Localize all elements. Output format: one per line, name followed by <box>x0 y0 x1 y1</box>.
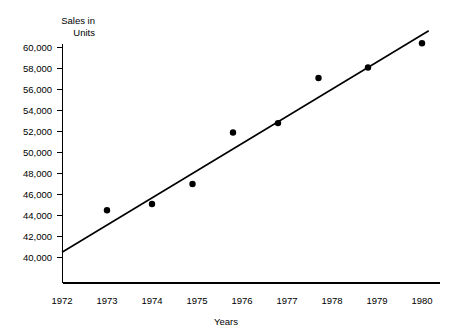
y-tick-label-54000: 54,000 <box>23 105 52 116</box>
x-tick-label-1977: 1977 <box>276 295 297 306</box>
y-tick-label-52000: 52,000 <box>23 126 52 137</box>
data-point <box>315 75 321 81</box>
data-point <box>189 181 195 187</box>
x-tick-label-1975: 1975 <box>186 295 207 306</box>
x-tick-label-1974: 1974 <box>141 295 162 306</box>
data-point <box>419 40 425 46</box>
x-tick-label-1976: 1976 <box>231 295 252 306</box>
data-point <box>149 201 155 207</box>
y-tick-label-60000: 60,000 <box>23 42 52 53</box>
y-tick-label-42000: 42,000 <box>23 231 52 242</box>
y-tick-label-56000: 56,000 <box>23 84 52 95</box>
y-axis-title-line2: Units <box>73 27 95 38</box>
data-point <box>230 129 236 135</box>
data-point <box>275 120 281 126</box>
data-point <box>104 207 110 213</box>
chart-page: Sales in Units 60,000 58,000 56,000 54,0… <box>0 0 452 334</box>
data-points-group <box>104 40 425 213</box>
y-axis-ticks <box>57 48 63 258</box>
y-tick-label-44000: 44,000 <box>23 210 52 221</box>
data-point <box>365 64 371 70</box>
y-axis-title-line1: Sales in <box>61 15 95 26</box>
y-tick-label-40000: 40,000 <box>23 252 52 263</box>
x-tick-label-1973: 1973 <box>96 295 117 306</box>
y-tick-label-46000: 46,000 <box>23 189 52 200</box>
y-tick-label-48000: 48,000 <box>23 168 52 179</box>
x-axis-title: Years <box>214 316 238 327</box>
scatter-chart: Sales in Units 60,000 58,000 56,000 54,0… <box>0 0 452 334</box>
x-tick-label-1972: 1972 <box>51 295 72 306</box>
trend-line <box>62 31 429 253</box>
y-tick-label-58000: 58,000 <box>23 63 52 74</box>
x-tick-label-1978: 1978 <box>321 295 342 306</box>
x-tick-label-1980: 1980 <box>411 295 432 306</box>
x-tick-label-1979: 1979 <box>366 295 387 306</box>
y-tick-label-50000: 50,000 <box>23 147 52 158</box>
